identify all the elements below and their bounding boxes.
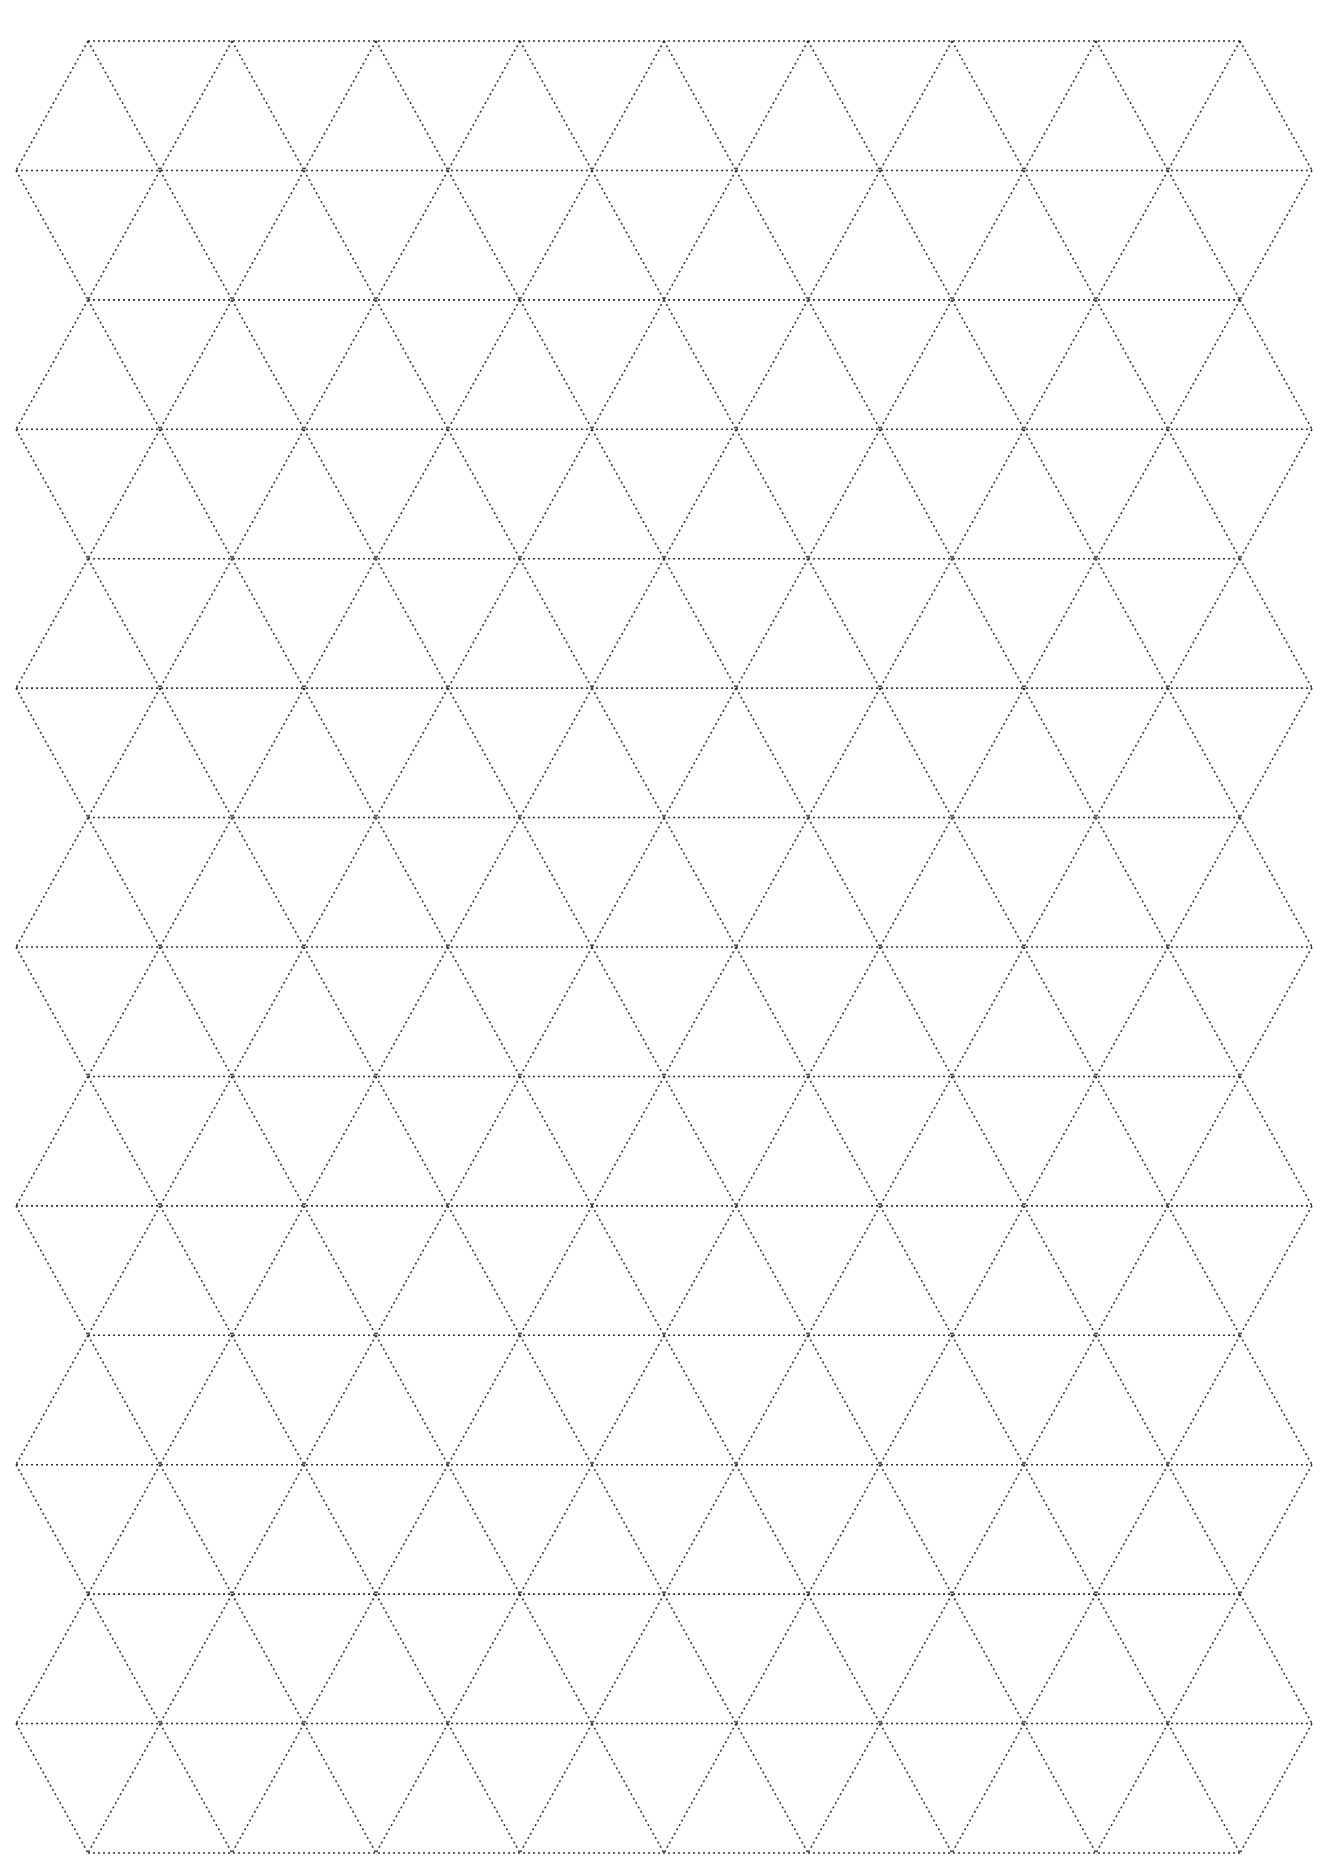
grid-diagonal-line xyxy=(16,1206,88,1335)
grid-diagonal-line xyxy=(1168,1206,1240,1335)
grid-diagonal-line xyxy=(664,559,736,688)
grid-diagonal-line xyxy=(304,1594,376,1723)
grid-diagonal-line xyxy=(952,429,1024,558)
grid-diagonal-line xyxy=(304,1724,376,1853)
grid-diagonal-line xyxy=(1024,559,1096,688)
grid-diagonal-line xyxy=(664,170,736,299)
grid-diagonal-line xyxy=(880,688,952,817)
grid-diagonal-line xyxy=(808,1465,880,1594)
grid-diagonal-line xyxy=(952,818,1024,947)
grid-diagonal-line xyxy=(304,1206,376,1335)
grid-diagonal-line xyxy=(520,688,592,817)
grid-diagonal-line xyxy=(1024,429,1096,558)
grid-diagonal-line xyxy=(448,559,520,688)
grid-diagonal-line xyxy=(448,947,520,1076)
grid-diagonal-line xyxy=(1240,1076,1312,1205)
grid-diagonal-line xyxy=(1096,947,1168,1076)
grid-diagonal-line xyxy=(376,818,448,947)
grid-diagonal-line xyxy=(1168,1335,1240,1464)
grid-diagonal-line xyxy=(1240,1724,1312,1853)
grid-diagonal-line xyxy=(160,947,232,1076)
grid-diagonal-line xyxy=(520,1594,592,1723)
grid-diagonal-line xyxy=(448,688,520,817)
grid-diagonal-line xyxy=(232,429,304,558)
grid-diagonal-line xyxy=(304,947,376,1076)
grid-diagonal-line xyxy=(376,429,448,558)
grid-diagonal-line xyxy=(880,1076,952,1205)
grid-diagonal-line xyxy=(1096,1724,1168,1853)
grid-diagonal-line xyxy=(376,1465,448,1594)
grid-diagonal-line xyxy=(1024,1594,1096,1723)
grid-diagonal-line xyxy=(1168,818,1240,947)
grid-diagonal-line xyxy=(592,170,664,299)
grid-diagonal-line xyxy=(880,41,952,170)
grid-diagonal-line xyxy=(16,429,88,558)
grid-diagonal-line xyxy=(952,300,1024,429)
grid-diagonal-line xyxy=(808,1335,880,1464)
grid-diagonal-line xyxy=(448,300,520,429)
grid-diagonal-line xyxy=(16,1335,88,1464)
grid-diagonal-line xyxy=(1168,947,1240,1076)
triangle-grid xyxy=(0,0,1334,1874)
grid-diagonal-line xyxy=(88,429,160,558)
grid-diagonal-line xyxy=(160,1335,232,1464)
grid-diagonal-line xyxy=(664,1594,736,1723)
grid-diagonal-line xyxy=(1096,1465,1168,1594)
grid-diagonal-line xyxy=(376,170,448,299)
grid-diagonal-line xyxy=(736,170,808,299)
grid-diagonal-line xyxy=(304,559,376,688)
grid-diagonal-line xyxy=(664,1335,736,1464)
grid-diagonal-line xyxy=(304,300,376,429)
grid-diagonal-line xyxy=(1240,1465,1312,1594)
grid-diagonal-line xyxy=(736,947,808,1076)
grid-diagonal-line xyxy=(664,41,736,170)
grid-diagonal-line xyxy=(664,818,736,947)
grid-diagonal-line xyxy=(592,818,664,947)
grid-diagonal-line xyxy=(376,947,448,1076)
grid-diagonal-line xyxy=(1240,41,1312,170)
grid-diagonal-line xyxy=(592,947,664,1076)
grid-diagonal-line xyxy=(1096,41,1168,170)
grid-diagonal-line xyxy=(1096,1076,1168,1205)
grid-diagonal-line xyxy=(232,688,304,817)
grid-diagonal-line xyxy=(736,1076,808,1205)
grid-diagonal-line xyxy=(880,300,952,429)
grid-diagonal-line xyxy=(160,429,232,558)
grid-diagonal-line xyxy=(16,559,88,688)
grid-diagonal-line xyxy=(736,688,808,817)
grid-diagonal-line xyxy=(1168,429,1240,558)
grid-diagonal-line xyxy=(592,559,664,688)
grid-diagonal-line xyxy=(88,1724,160,1853)
grid-diagonal-line xyxy=(520,1076,592,1205)
grid-diagonal-line xyxy=(448,1076,520,1205)
grid-diagonal-line xyxy=(736,429,808,558)
grid-diagonal-line xyxy=(1168,300,1240,429)
grid-diagonal-line xyxy=(808,1076,880,1205)
grid-diagonal-line xyxy=(1096,429,1168,558)
grid-diagonal-line xyxy=(592,1594,664,1723)
grid-diagonal-line xyxy=(664,688,736,817)
grid-diagonal-line xyxy=(1024,818,1096,947)
grid-diagonal-line xyxy=(880,1335,952,1464)
grid-diagonal-line xyxy=(1096,818,1168,947)
grid-diagonal-line xyxy=(1096,1335,1168,1464)
grid-diagonal-line xyxy=(1096,559,1168,688)
grid-diagonal-line xyxy=(376,41,448,170)
grid-diagonal-line xyxy=(232,947,304,1076)
grid-diagonal-line xyxy=(880,818,952,947)
grid-diagonal-line xyxy=(1240,1206,1312,1335)
grid-diagonal-line xyxy=(448,818,520,947)
grid-diagonal-line xyxy=(1240,688,1312,817)
grid-diagonal-line xyxy=(520,1465,592,1594)
grid-diagonal-line xyxy=(88,1206,160,1335)
grid-diagonal-line xyxy=(160,41,232,170)
grid-diagonal-line xyxy=(520,170,592,299)
grid-diagonal-line xyxy=(1168,559,1240,688)
grid-diagonal-line xyxy=(88,947,160,1076)
grid-diagonal-line xyxy=(880,170,952,299)
grid-diagonal-line xyxy=(952,1594,1024,1723)
grid-diagonal-line xyxy=(592,688,664,817)
grid-diagonal-line xyxy=(304,1076,376,1205)
grid-diagonal-line xyxy=(592,1335,664,1464)
grid-diagonal-line xyxy=(1024,170,1096,299)
